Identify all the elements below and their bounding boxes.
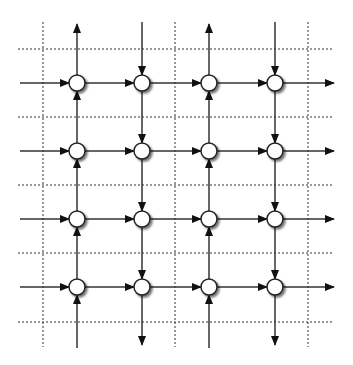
- node-circle-r3-c2: [134, 211, 150, 227]
- node-circle-r1-c1: [69, 75, 85, 91]
- node-circle-r3-c4: [267, 211, 283, 227]
- node-circle-r1-c4: [267, 75, 283, 91]
- node-circle-r1-c3: [201, 75, 217, 91]
- node-circle-r3-c1: [69, 211, 85, 227]
- node-circle-r2-c1: [69, 143, 85, 159]
- node-circle-r2-c4: [267, 143, 283, 159]
- node-circle-r2-c2: [134, 143, 150, 159]
- node-circle-r4-c4: [267, 279, 283, 295]
- node-circle-r2-c3: [201, 143, 217, 159]
- node-circle-r4-c1: [69, 279, 85, 295]
- node-circle-r4-c2: [134, 279, 150, 295]
- node-circle-r1-c2: [134, 75, 150, 91]
- grid-network-diagram: [0, 0, 353, 365]
- node-circle-r3-c3: [201, 211, 217, 227]
- dotted-grid: [18, 22, 334, 347]
- node-circle-r4-c3: [201, 279, 217, 295]
